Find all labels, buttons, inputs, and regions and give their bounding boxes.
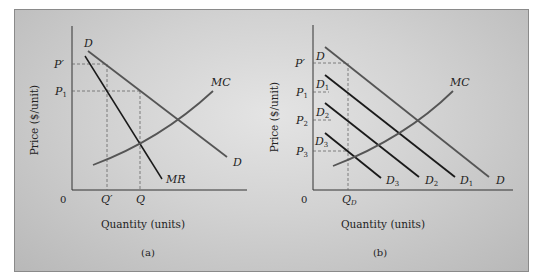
tick-qd-b: QD <box>342 193 357 207</box>
label-d2-end-b: D2 <box>424 174 438 188</box>
caption-b: (b) <box>373 247 387 258</box>
mc-curve-a <box>93 91 213 165</box>
caption-a: (a) <box>141 247 155 258</box>
demand-curve-b <box>325 47 489 177</box>
label-d3-end-b: D3 <box>385 174 399 188</box>
label-d-end-a: D <box>232 156 242 169</box>
y-axis-label-b: Price ($/unit) <box>268 82 280 152</box>
panel-a: D D MR MC P′ P1 Q′ Q 0 Quantity (units) … <box>28 26 247 258</box>
tick-q-a: Q <box>136 193 145 206</box>
tick-q-prime-a: Q′ <box>101 193 113 206</box>
label-mc-a: MC <box>210 76 231 89</box>
tick-p-prime-a: P′ <box>53 58 64 71</box>
mr-curve-a <box>85 56 162 179</box>
label-d2-top-b: D2 <box>315 106 329 120</box>
y-axis-label-a: Price ($/unit) <box>28 85 40 155</box>
tick-p1-a: P1 <box>54 85 67 99</box>
demand-curve-d2-b <box>325 103 419 177</box>
tick-p3-b: P3 <box>295 145 308 159</box>
label-d-end-b: D <box>495 174 505 187</box>
label-d1-end-b: D1 <box>459 174 473 188</box>
origin-b: 0 <box>301 194 307 205</box>
tick-p2-b: P2 <box>295 114 308 128</box>
origin-a: 0 <box>60 194 66 205</box>
x-axis-label-b: Quantity (units) <box>341 218 425 230</box>
demand-curve-a <box>88 51 227 157</box>
tick-p-prime-b: P′ <box>294 57 305 70</box>
diagram-canvas: D D MR MC P′ P1 Q′ Q 0 Quantity (units) … <box>0 0 537 277</box>
x-axis-label-a: Quantity (units) <box>101 218 185 230</box>
label-d3-top-b: D3 <box>314 135 328 149</box>
label-mr-a: MR <box>165 173 186 186</box>
label-mc-b: MC <box>449 76 470 89</box>
tick-p1-b: P1 <box>295 86 308 100</box>
label-d-top-a: D <box>83 37 93 50</box>
panel-b: D D MC D1 D2 D3 D3 D2 D1 P′ P1 P2 P3 QD … <box>268 25 513 258</box>
label-d-top-b: D <box>315 50 325 63</box>
label-d1-top-b: D1 <box>315 78 329 92</box>
